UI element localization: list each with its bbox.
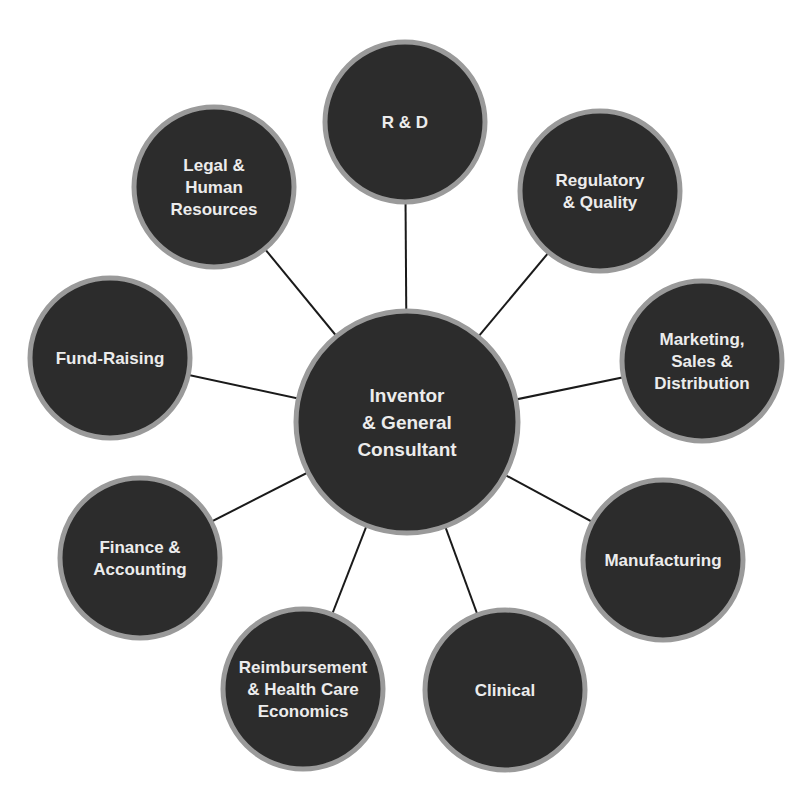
node-legal-human-resources-label-line: Human [185, 178, 243, 197]
node-r-and-d-label-line: R & D [382, 113, 428, 132]
node-finance-accounting-label-line: Accounting [93, 560, 187, 579]
node-fund-raising-label-line: Fund-Raising [56, 349, 165, 368]
node-finance-accounting-circle [60, 478, 220, 638]
center-node-inventor-label-line: & General [362, 412, 452, 433]
node-regulatory-quality-label-line: & Quality [563, 193, 638, 212]
center-node: Inventor& GeneralConsultant [296, 311, 518, 533]
node-legal-human-resources: Legal &HumanResources [134, 107, 294, 267]
node-regulatory-quality-label-line: Regulatory [556, 171, 645, 190]
center-node-inventor: Inventor& GeneralConsultant [296, 311, 518, 533]
node-regulatory-quality: Regulatory& Quality [520, 111, 680, 271]
node-finance-accounting-label-line: Finance & [99, 538, 180, 557]
node-clinical-label-line: Clinical [475, 681, 535, 700]
center-node-inventor-label-line: Consultant [357, 439, 457, 460]
node-reimbursement-health-care-economics-label-line: Economics [258, 702, 349, 721]
node-r-and-d: R & D [325, 42, 485, 202]
node-reimbursement-health-care-economics-label-line: Reimbursement [239, 658, 368, 677]
org-diagram: R & DRegulatory& QualityMarketing,Sales … [0, 0, 802, 794]
node-legal-human-resources-label-line: Legal & [183, 156, 244, 175]
node-marketing-sales-distribution-label-line: Sales & [671, 352, 732, 371]
node-manufacturing: Manufacturing [583, 480, 743, 640]
node-regulatory-quality-circle [520, 111, 680, 271]
node-clinical: Clinical [425, 610, 585, 770]
node-marketing-sales-distribution-label-line: Marketing, [659, 330, 744, 349]
node-finance-accounting: Finance &Accounting [60, 478, 220, 638]
node-marketing-sales-distribution-label-line: Distribution [654, 374, 749, 393]
node-marketing-sales-distribution: Marketing,Sales &Distribution [622, 281, 782, 441]
node-reimbursement-health-care-economics: Reimbursement& Health CareEconomics [223, 609, 383, 769]
node-reimbursement-health-care-economics-label-line: & Health Care [247, 680, 358, 699]
node-fund-raising: Fund-Raising [30, 278, 190, 438]
node-manufacturing-label-line: Manufacturing [604, 551, 721, 570]
node-legal-human-resources-label-line: Resources [171, 200, 258, 219]
center-node-inventor-label-line: Inventor [370, 385, 446, 406]
